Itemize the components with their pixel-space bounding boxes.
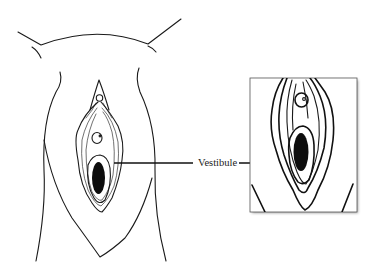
clitoris xyxy=(96,95,102,101)
inset-vaginal-opening xyxy=(294,133,309,171)
vestibule-label: Vestibule xyxy=(198,156,237,170)
urethral-opening xyxy=(92,133,102,144)
urethral-meatus xyxy=(99,135,101,137)
groin-outline xyxy=(18,19,181,45)
left-thigh-outline xyxy=(36,72,61,261)
right-thigh-outline xyxy=(137,68,166,261)
anatomy-diagram xyxy=(0,0,377,276)
inset-magnified-view xyxy=(250,78,357,212)
right-groin-tick xyxy=(148,46,156,52)
main-drawing xyxy=(18,19,181,261)
labia-outer-fold xyxy=(76,102,123,212)
labia-majora-outline xyxy=(44,140,152,257)
left-groin-tick xyxy=(32,47,41,58)
vaginal-opening xyxy=(92,162,105,194)
